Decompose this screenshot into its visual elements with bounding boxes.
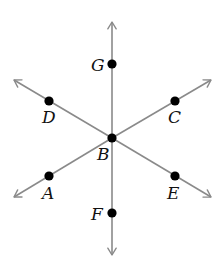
diagram-canvas: BGDCAEF — [0, 0, 222, 276]
point-label-G: G — [91, 55, 105, 75]
ray-BC — [112, 80, 211, 138]
point-A — [44, 171, 53, 180]
rays-diagram: BGDCAEF — [0, 0, 222, 276]
point-label-C: C — [168, 107, 181, 127]
ray-BE — [112, 138, 211, 197]
ray-BD — [14, 80, 112, 138]
ray-line — [112, 138, 211, 197]
ray-line — [112, 80, 211, 138]
ray-line — [14, 80, 112, 138]
ray-BG — [108, 22, 116, 138]
point-label-D: D — [41, 107, 56, 127]
point-label-A: A — [40, 183, 54, 203]
point-label-F: F — [90, 204, 104, 224]
point-D — [44, 96, 53, 105]
point-label-B: B — [96, 144, 110, 164]
point-E — [170, 171, 179, 180]
point-G — [107, 59, 116, 68]
point-label-E: E — [166, 183, 180, 203]
point-F — [107, 208, 116, 217]
point-B — [107, 133, 116, 142]
point-C — [170, 96, 179, 105]
